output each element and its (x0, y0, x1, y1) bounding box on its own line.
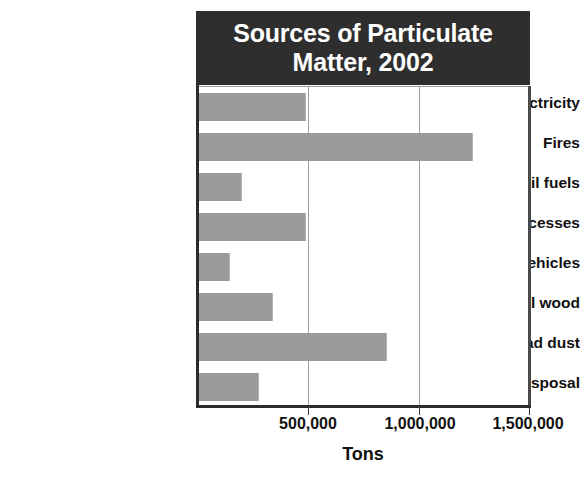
bar-row (196, 247, 529, 287)
x-axis-tick (308, 406, 309, 415)
x-axis-title: Tons (196, 444, 530, 465)
particulate-matter-bar-chart: Sources of Particulate Matter, 2002 Elec… (0, 0, 580, 495)
bar-fossil-fuels (196, 173, 242, 201)
bar-waste-disposal (196, 373, 259, 401)
x-axis-line (196, 405, 531, 408)
bar-row (196, 87, 529, 127)
chart-title-banner: Sources of Particulate Matter, 2002 (196, 11, 530, 85)
bar-row (196, 127, 529, 167)
x-tick-label: 500,000 (279, 415, 337, 433)
x-axis-tick (419, 406, 420, 415)
chart-title: Sources of Particulate Matter, 2002 (233, 19, 493, 77)
bar-row (196, 367, 529, 407)
bar-industrial-processes (196, 213, 306, 241)
y-axis-line (196, 84, 199, 408)
bar-row (196, 287, 529, 327)
plot-area (196, 86, 530, 406)
bar-row (196, 207, 529, 247)
bar-electricity (196, 93, 306, 121)
x-tick-label: 1,500,000 (492, 415, 563, 433)
x-axis-tick (529, 406, 530, 415)
bar-residential-wood (196, 293, 273, 321)
bar-on-road-vehicles (196, 253, 230, 281)
bar-row (196, 327, 529, 367)
bar-road-dust (196, 333, 387, 361)
x-tick-label: 1,000,000 (384, 415, 455, 433)
plot-right-border (528, 86, 531, 408)
bar-fires (196, 133, 473, 161)
bar-row (196, 167, 529, 207)
